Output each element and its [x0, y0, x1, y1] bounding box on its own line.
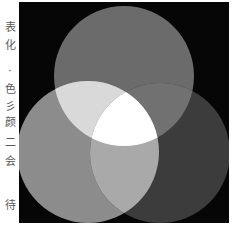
side-char: 表: [4, 22, 16, 33]
side-char: 待: [4, 200, 16, 211]
venn-diagram: [19, 2, 229, 223]
color-circles-figure: [19, 2, 229, 223]
side-char: 二: [4, 137, 16, 148]
side-char: 颜: [4, 117, 16, 128]
side-text-column: 表 化 · 色 彡 颜 二 会 待: [0, 0, 18, 226]
side-char: ·: [4, 66, 16, 77]
side-char: 彡: [4, 101, 16, 112]
side-char: 色: [4, 84, 16, 95]
side-char: 会: [4, 156, 16, 167]
side-char: 化: [4, 40, 16, 51]
